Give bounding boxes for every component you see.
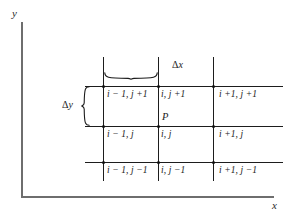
x-axis-label: x <box>272 200 277 211</box>
y-axis-line <box>21 22 23 198</box>
gridline-horizontal-middle <box>85 126 283 127</box>
y-axis-label: y <box>12 8 17 19</box>
node-dot <box>212 161 215 164</box>
cell-label-i-minus-1-j: i − 1, j <box>107 130 134 140</box>
gridline-horizontal-bottom <box>85 162 283 163</box>
cell-label-i-j-minus-1: i, j −1 <box>161 166 185 176</box>
cell-label-i-j: i, j <box>161 130 171 140</box>
node-dot <box>157 125 160 128</box>
node-dot <box>212 125 215 128</box>
node-dot <box>212 85 215 88</box>
delta-x-label: Δx <box>172 60 183 70</box>
cell-label-i-plus-1-j-plus-1: i +1, j +1 <box>219 90 257 100</box>
cell-label-i-plus-1-j: i +1, j <box>219 130 243 140</box>
node-dot <box>102 161 105 164</box>
cell-label-i-plus-1-j-minus-1: i +1, j −1 <box>219 166 257 176</box>
node-dot <box>102 85 105 88</box>
delta-y-variable: y <box>68 99 72 110</box>
delta-x-brace-icon <box>104 72 158 80</box>
delta-y-label: Δy <box>62 100 73 110</box>
node-dot <box>157 85 160 88</box>
cell-label-i-j-plus-1: i, j +1 <box>161 90 185 100</box>
delta-x-variable: x <box>178 59 182 70</box>
node-dot <box>102 125 105 128</box>
point-p-label: P <box>162 112 168 123</box>
cell-label-i-minus-1-j-plus-1: i − 1, j +1 <box>107 90 148 100</box>
node-dot <box>157 161 160 164</box>
delta-y-brace-icon <box>81 86 90 126</box>
finite-difference-grid-figure: y x i − 1, j +1 i, j +1 i +1, j +1 i − 1… <box>0 0 286 215</box>
x-axis-line <box>21 196 274 198</box>
gridline-horizontal-top <box>85 86 283 87</box>
cell-label-i-minus-1-j-minus-1: i − 1, j −1 <box>107 166 148 176</box>
